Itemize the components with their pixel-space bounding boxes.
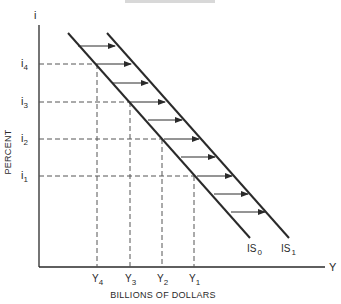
tick-y1: Y1 [189, 273, 201, 287]
is1-curve [107, 33, 289, 238]
is0-curve [68, 33, 250, 238]
tick-y3: Y3 [125, 273, 137, 287]
tick-i1: i1 [21, 169, 28, 184]
y-axis-symbol: i [34, 9, 36, 21]
is-curve-shift-chart: i Y i4 i3 i2 i1 Y4 Y3 Y2 Y1 IS0 IS1 BILL… [0, 0, 341, 304]
tick-i2: i2 [21, 132, 28, 147]
y-tick-labels: i4 i3 i2 i1 [21, 57, 28, 184]
tick-y4: Y4 [92, 273, 104, 287]
is0-label: IS0 [247, 243, 262, 257]
x-axis-symbol: Y [329, 261, 337, 273]
y-axis-title: PERCENT [3, 129, 13, 174]
tick-y2: Y2 [157, 273, 169, 287]
cut-off-caption [125, 0, 215, 3]
guide-lines [39, 64, 195, 267]
shift-arrows [78, 46, 265, 212]
x-tick-labels: Y4 Y3 Y2 Y1 [92, 273, 201, 287]
tick-i3: i3 [21, 95, 28, 110]
is1-label: IS1 [281, 243, 296, 257]
tick-i4: i4 [21, 57, 28, 72]
x-axis-title: BILLIONS OF DOLLARS [110, 290, 216, 300]
